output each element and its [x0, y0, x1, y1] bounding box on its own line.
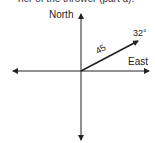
angle-label: 32° [133, 28, 147, 38]
east-label: East [128, 57, 148, 67]
vector-diagram [0, 0, 155, 143]
north-label: North [49, 10, 73, 20]
